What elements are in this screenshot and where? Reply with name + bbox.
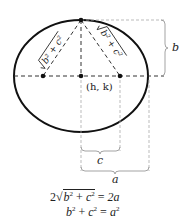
radical-sign: √ [56, 190, 63, 204]
eq1-radicand: b2 + c2 [63, 189, 95, 204]
focus-right-point [118, 74, 123, 79]
slanted-label-right: b² + c² [95, 22, 126, 61]
slanted-label-left: b² + c² [36, 31, 67, 70]
focus-left-point [41, 74, 46, 79]
center-point [79, 74, 84, 79]
brace-b [161, 20, 168, 76]
equation-line-1: 2√b2 + c2 = 2a [50, 190, 119, 205]
eq1-rhs: 2a [107, 190, 119, 204]
brace-c [81, 147, 120, 154]
top-vertex-point [79, 18, 84, 23]
center-label: (h, k) [86, 81, 113, 92]
equation-line-2: b2 + c2 = a2 [66, 205, 119, 220]
label-b: b [172, 41, 179, 54]
label-c: c [97, 154, 103, 167]
label-a: a [112, 173, 119, 186]
eq1-equals: = [98, 190, 105, 204]
